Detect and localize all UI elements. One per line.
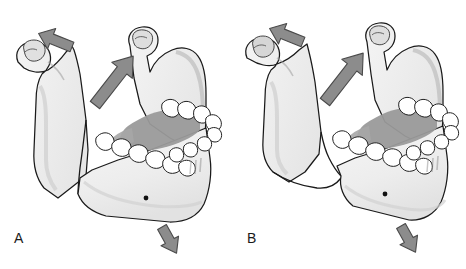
panel-a-label: A <box>14 231 24 245</box>
tooth <box>416 158 433 174</box>
tooth <box>183 143 197 157</box>
panel-a-illustration <box>0 0 233 269</box>
panel-a: A <box>0 0 233 269</box>
distal-body-segment <box>78 27 222 222</box>
proximal-ramus-segment <box>17 40 88 198</box>
ramus-outline <box>246 38 321 182</box>
contralateral-condyle <box>370 26 390 45</box>
tooth <box>129 145 148 163</box>
contralateral-condyle <box>133 30 153 49</box>
tooth <box>179 160 196 176</box>
tooth <box>349 137 368 155</box>
inferior-displacement-arrow <box>392 221 424 257</box>
tooth <box>197 137 211 151</box>
tooth <box>420 141 434 155</box>
mental-foramen <box>383 192 388 197</box>
panel-b-illustration <box>233 0 466 269</box>
mental-foramen <box>144 196 149 201</box>
inferior-displacement-arrow <box>153 222 185 258</box>
panel-b: B <box>233 0 466 269</box>
tooth <box>366 143 385 161</box>
tooth <box>169 148 183 162</box>
panel-b-label: B <box>247 231 257 245</box>
tooth <box>406 146 420 160</box>
distal-body-segment <box>333 23 459 220</box>
tooth <box>146 151 165 169</box>
masseter-pull-arrow <box>315 45 374 110</box>
tooth <box>434 135 448 149</box>
proximal-ramus-segment <box>246 36 321 182</box>
mandible-force-diagram-figure: A <box>0 0 466 269</box>
tooth <box>112 139 131 157</box>
tooth <box>383 149 402 167</box>
